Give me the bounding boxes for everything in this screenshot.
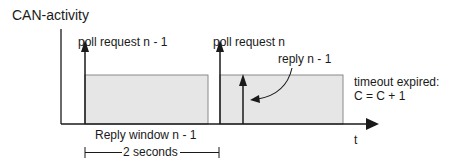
reply-window-n-minus-1 [85, 75, 208, 124]
y-axis-label: CAN-activity [12, 8, 89, 22]
poll-request-n-label: poll request n [213, 36, 285, 48]
reply-n-minus-1-label: reply n - 1 [278, 53, 331, 65]
x-axis-arrow-icon [366, 118, 379, 130]
reply-window-n [220, 75, 343, 124]
timeout-annotation-line2: C = C + 1 [354, 90, 405, 102]
timeout-annotation-line1: timeout expired: [354, 76, 439, 88]
reply-window-label: Reply window n - 1 [95, 129, 196, 141]
poll-request-n-minus-1-label: poll request n - 1 [78, 36, 167, 48]
duration-label: 2 seconds [123, 146, 178, 158]
x-axis-label: t [354, 134, 357, 146]
